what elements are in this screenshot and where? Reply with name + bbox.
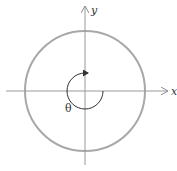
y-axis-label: y [90, 4, 98, 17]
x-axis-label: x [171, 85, 177, 98]
unit-circle-diagram: y x θ [0, 0, 177, 171]
angle-label: θ [65, 102, 72, 115]
